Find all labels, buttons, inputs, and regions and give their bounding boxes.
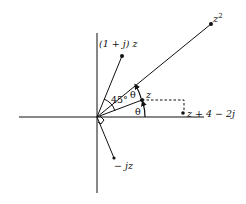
- label-theta-upper: θ: [130, 89, 136, 100]
- arc-theta-upper: [136, 86, 141, 98]
- label-z2: z2: [212, 12, 223, 24]
- point-z: [140, 98, 144, 102]
- arc-theta-lower: [143, 103, 145, 117]
- complex-plane-diagram: z2 (1 + j) z z z + 4 − 2j − jz 45° θ θ: [0, 0, 246, 204]
- point-z-plus-4-minus-2j: [181, 111, 185, 115]
- label-theta-lower: θ: [135, 106, 141, 117]
- point-one-plus-j-z: [120, 54, 124, 58]
- label-z-plus-4-minus-2j: z + 4 − 2j: [186, 108, 235, 119]
- label-minus-jz: − jz: [114, 160, 134, 171]
- label-45-degree: 45°: [111, 94, 128, 105]
- label-z: z: [145, 89, 152, 100]
- translation-path: [142, 100, 184, 112]
- label-one-plus-j-z: (1 + j) z: [99, 38, 138, 49]
- vector-one-plus-j-z: [97, 56, 122, 117]
